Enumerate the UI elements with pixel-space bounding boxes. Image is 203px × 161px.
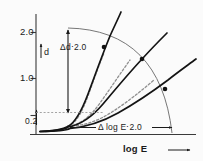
y-tick-label-2-0: 2.0 xyxy=(20,27,34,37)
delta-d-label: Δd⋅2.0 xyxy=(60,43,86,52)
marker-low xyxy=(163,87,168,92)
solid-curve-low xyxy=(40,59,196,132)
y-tick-label-0-2: 0.2 xyxy=(25,117,37,126)
figure-canvas: 2.0 1.0 0.2 d Δd⋅2.0 Δ log E⋅2.0 log E xyxy=(0,0,203,161)
density-symbol-label: d xyxy=(44,48,49,57)
dashed-curve-group xyxy=(68,53,154,126)
log-e-axis-label: log E xyxy=(123,144,147,154)
marker-high xyxy=(102,45,107,50)
y-tick-label-1-0: 1.0 xyxy=(20,73,34,83)
solid-curve-group xyxy=(40,12,196,132)
marker-medium xyxy=(140,57,145,62)
delta-loge-label: Δ log E⋅2.0 xyxy=(98,123,142,132)
